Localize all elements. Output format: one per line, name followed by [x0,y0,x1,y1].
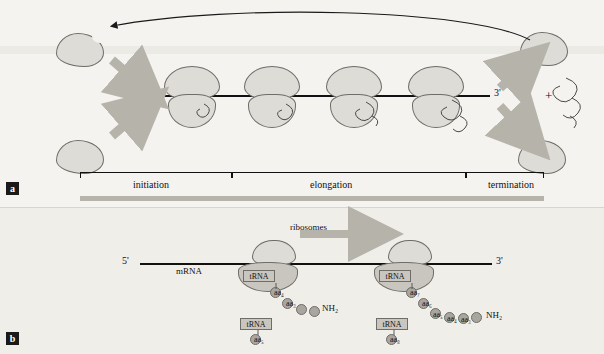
aa-chain-left-3-ball [309,306,320,317]
bracket-elongation [232,172,466,178]
ribosome-small-subunit [168,94,216,128]
ribosome-small-subunit [412,94,460,128]
aa-chain-right-1-label: aa₆ [422,299,432,308]
ribosome-subunit-free-right [518,140,566,174]
bracket-termination [466,172,544,178]
three-prime-label-a: 3' [494,87,501,98]
nh2-terminus-right: NH₂ [486,310,502,320]
progress-bar-a [80,196,544,201]
aa-chain-right-2-label: aa₅ [433,310,443,319]
ribosome-a-1 [164,66,220,128]
stage-label-initiation: initiation [133,179,169,190]
aa-chain-right-3-label: aa₄ [447,314,457,323]
bracket-initiation [80,172,232,178]
trna-free-right: tRNA [376,318,408,330]
mrna-label: mRNA [176,266,202,276]
five-prime-label-a: 5' [136,87,143,98]
aa-chain-right-5-ball [471,312,482,323]
ribosome-subunit-recycled-right [520,32,568,66]
trna-bound-left: tRNA [243,270,275,282]
ribosome-a-2 [244,66,300,128]
subunit-bite-left [92,30,108,43]
aa-free-right-label: aa₈ [390,335,400,344]
mrna-strand-b [140,263,492,265]
ribosome-subunit-free-left [56,140,104,174]
ribosome-small-subunit [248,94,296,128]
stage-label-termination: termination [488,179,534,190]
aa-bound-left-label: aa₄ [274,288,284,297]
aa-chain-left-2-ball [296,304,307,315]
five-prime-label-b: 5' [122,255,129,266]
ribosome-a-3 [326,66,382,128]
three-prime-label-b: 3' [496,255,503,266]
ribosome-a-4 [408,66,464,128]
aa-chain-left-1-label: aa₃ [286,299,296,308]
ribosomes-label: ribosomes [290,222,327,232]
figure-translation-diagram: a b 5' 3' + initiation elongation termin… [0,0,604,354]
trna-bound-right: tRNA [379,270,411,282]
aa-free-left-label: aa₅ [254,335,264,344]
panel-b-label: b [6,332,19,345]
plus-sign: + [545,88,552,104]
stage-label-elongation: elongation [310,179,352,190]
panel-a-label: a [6,182,19,195]
aa-bound-right-label: aa₇ [410,288,420,297]
trna-free-left: tRNA [240,318,272,330]
ribosome-small-subunit [330,94,378,128]
aa-chain-right-4-label: aa₃ [461,315,471,324]
nh2-terminus-left: NH₂ [322,303,338,313]
